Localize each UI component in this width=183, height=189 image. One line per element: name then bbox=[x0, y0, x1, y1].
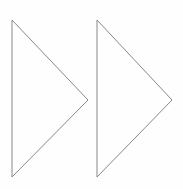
drawing-canvas: Two identical unfilled triangles pointin… bbox=[0, 0, 183, 189]
figure-svg bbox=[0, 0, 183, 189]
